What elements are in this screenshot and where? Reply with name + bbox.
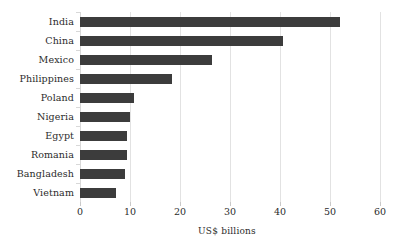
bar-chart: IndiaChinaMexicoPhilippinesPolandNigeria… bbox=[0, 0, 402, 247]
bar-vietnam bbox=[80, 188, 116, 198]
y-label-row: India bbox=[0, 12, 74, 31]
x-tick-label-30: 30 bbox=[224, 206, 236, 217]
y-axis-label-romania: Romania bbox=[31, 149, 74, 160]
bar-romania bbox=[80, 150, 127, 160]
y-axis-label-vietnam: Vietnam bbox=[33, 187, 74, 198]
y-axis-label-india: India bbox=[49, 16, 74, 27]
y-label-row: Vietnam bbox=[0, 183, 74, 202]
bar-nigeria bbox=[80, 112, 130, 122]
y-label-row: Egypt bbox=[0, 126, 74, 145]
bar-row bbox=[80, 12, 380, 31]
x-tick-label-10: 10 bbox=[124, 206, 136, 217]
x-tick-label-40: 40 bbox=[274, 206, 286, 217]
bar-bangladesh bbox=[80, 169, 125, 179]
bar-row bbox=[80, 107, 380, 126]
bar-mexico bbox=[80, 55, 212, 65]
bar-row bbox=[80, 145, 380, 164]
y-label-row: Mexico bbox=[0, 50, 74, 69]
x-axis-title-text: US$ billions bbox=[198, 226, 256, 236]
y-axis-label-mexico: Mexico bbox=[39, 54, 74, 65]
x-tick-label-50: 50 bbox=[324, 206, 336, 217]
y-axis-label-china: China bbox=[45, 35, 74, 46]
x-tick-label-60: 60 bbox=[374, 206, 386, 217]
bar-poland bbox=[80, 93, 134, 103]
y-axis-label-egypt: Egypt bbox=[45, 130, 74, 141]
bar-row bbox=[80, 31, 380, 50]
bar-egypt bbox=[80, 131, 127, 141]
bar-india bbox=[80, 17, 340, 27]
bar-philippines bbox=[80, 74, 172, 84]
bar-row bbox=[80, 126, 380, 145]
x-tick-label-20: 20 bbox=[174, 206, 186, 217]
y-axis-label-poland: Poland bbox=[41, 92, 74, 103]
y-label-row: Bangladesh bbox=[0, 164, 74, 183]
plot-area bbox=[80, 12, 380, 202]
y-axis-label-philippines: Philippines bbox=[19, 73, 74, 84]
y-label-row: Philippines bbox=[0, 69, 74, 88]
bar-row bbox=[80, 69, 380, 88]
bar-series bbox=[80, 12, 380, 202]
y-label-row: Poland bbox=[0, 88, 74, 107]
x-axis-title: US$ billions bbox=[0, 226, 402, 236]
y-axis-label-nigeria: Nigeria bbox=[37, 111, 74, 122]
bar-row bbox=[80, 50, 380, 69]
x-axis-tick-labels: 0102030405060 bbox=[80, 206, 380, 222]
y-axis-labels: IndiaChinaMexicoPhilippinesPolandNigeria… bbox=[0, 12, 74, 202]
bar-row bbox=[80, 88, 380, 107]
y-label-row: China bbox=[0, 31, 74, 50]
gridline-60 bbox=[380, 12, 381, 202]
bar-row bbox=[80, 183, 380, 202]
x-tick-label-0: 0 bbox=[77, 206, 83, 217]
y-axis-label-bangladesh: Bangladesh bbox=[17, 168, 74, 179]
y-label-row: Romania bbox=[0, 145, 74, 164]
bar-china bbox=[80, 36, 283, 46]
bar-row bbox=[80, 164, 380, 183]
y-label-row: Nigeria bbox=[0, 107, 74, 126]
